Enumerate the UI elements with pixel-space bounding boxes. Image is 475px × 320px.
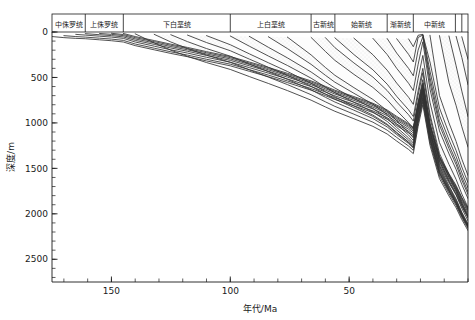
strat-cell-label: 中侏罗统: [55, 20, 83, 29]
strat-cell-label: 下白垩统: [163, 20, 191, 29]
y-tick-label: 500: [31, 73, 48, 83]
y-tick-label: 0: [42, 27, 48, 37]
strat-cell-label: 始新统: [351, 20, 372, 29]
y-tick-label: 2500: [25, 254, 48, 264]
strat-cell-label: 中新统: [424, 20, 445, 29]
strat-cell-label: 上侏罗统: [90, 20, 118, 29]
stratigraphic-header: 中侏罗统上侏罗统下白垩统上白垩统古新统始新统渐新统中新统: [52, 14, 468, 32]
y-tick-label: 2000: [25, 209, 48, 219]
strat-cell-label: 渐新统: [390, 20, 411, 29]
x-tick-label: 50: [343, 286, 355, 296]
y-tick-label: 1000: [25, 118, 48, 128]
y-tick-label: 1500: [25, 164, 48, 174]
strat-cell-label: 古新统: [313, 20, 334, 29]
x-tick-label: 100: [222, 286, 239, 296]
x-tick-label: 150: [103, 286, 120, 296]
burial-history-figure: 中侏罗统上侏罗统下白垩统上白垩统古新统始新统渐新统中新统 15010050050…: [0, 0, 475, 320]
figure-canvas: 中侏罗统上侏罗统下白垩统上白垩统古新统始新统渐新统中新统 15010050050…: [0, 0, 475, 320]
y-axis-label: 深度/m: [5, 142, 16, 172]
strat-cell-label: 上白垩统: [257, 20, 285, 29]
x-axis-label: 年代/Ma: [243, 303, 277, 314]
